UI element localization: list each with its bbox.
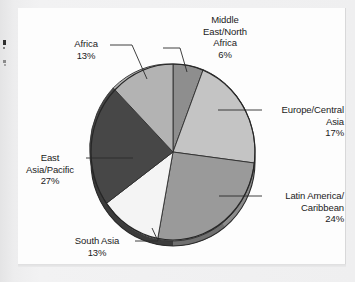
- label-line: Europe/Central: [252, 104, 344, 116]
- label-value: 24%: [252, 213, 344, 225]
- label-line: Africa: [180, 37, 270, 49]
- label-value: 27%: [14, 175, 86, 187]
- label-europe-central-asia: Europe/Central Asia 17%: [252, 104, 344, 139]
- label-line: Asia: [252, 116, 344, 128]
- label-line: Africa: [62, 38, 110, 50]
- pie-chart: [0, 0, 355, 282]
- label-south-asia: South Asia 13%: [58, 235, 136, 258]
- label-middle-east-north-africa: Middle East/North Africa 6%: [180, 14, 270, 60]
- label-line: Caribbean: [252, 202, 344, 214]
- label-africa: Africa 13%: [62, 38, 110, 61]
- label-latin-america-caribbean: Latin America/ Caribbean 24%: [252, 190, 344, 225]
- label-line: East/North: [180, 26, 270, 38]
- label-value: 17%: [252, 127, 344, 139]
- figure-page: Middle East/North Africa 6% Europe/Centr…: [0, 0, 355, 282]
- label-line: Middle: [180, 14, 270, 26]
- label-line: East: [14, 152, 86, 164]
- label-line: Asia/Pacific: [14, 164, 86, 176]
- label-value: 6%: [180, 49, 270, 61]
- pie-slices: [90, 64, 255, 241]
- label-value: 13%: [58, 247, 136, 259]
- label-east-asia-pacific: East Asia/Pacific 27%: [14, 152, 86, 187]
- label-value: 13%: [62, 50, 110, 62]
- pie-slice-latin-america-caribbean[interactable]: [158, 152, 255, 241]
- label-line: South Asia: [58, 235, 136, 247]
- label-line: Latin America/: [252, 190, 344, 202]
